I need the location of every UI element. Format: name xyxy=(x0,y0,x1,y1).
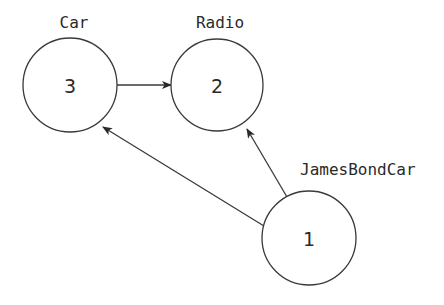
node-label-car: Car xyxy=(60,13,89,32)
node-radio: Radio 2 xyxy=(171,13,263,131)
node-jamesbondcar: JamesBondCar 1 xyxy=(262,160,416,285)
node-label-radio: Radio xyxy=(196,13,244,32)
node-number-radio: 2 xyxy=(211,75,223,97)
node-car: Car 3 xyxy=(23,13,117,132)
dependency-diagram: Car 3 Radio 2 JamesBondCar 1 xyxy=(0,0,444,305)
node-number-jamesbondcar: 1 xyxy=(303,228,315,250)
edge-jamesbondcar-to-radio xyxy=(247,129,287,197)
node-number-car: 3 xyxy=(64,75,76,97)
edge-jamesbondcar-to-car xyxy=(103,127,264,226)
node-label-jamesbondcar: JamesBondCar xyxy=(300,160,416,179)
